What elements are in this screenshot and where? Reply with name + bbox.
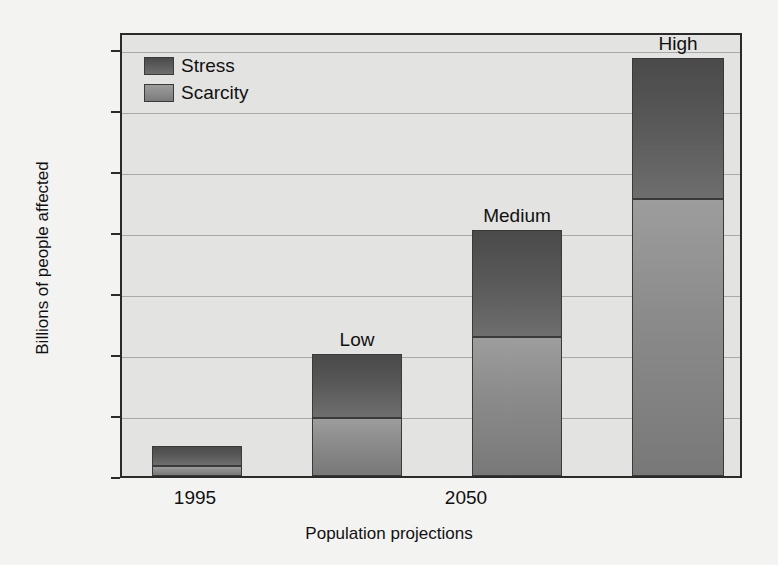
legend-item-stress: Stress bbox=[144, 53, 249, 78]
bar-segment-scarcity[interactable] bbox=[152, 466, 242, 476]
y-axis-title: Billions of people affected bbox=[33, 108, 53, 408]
bar-low[interactable]: Low bbox=[312, 354, 402, 476]
bar-segment-stress[interactable] bbox=[472, 230, 562, 337]
bar-segment-stress[interactable] bbox=[152, 446, 242, 466]
chart-legend: Stress Scarcity bbox=[144, 53, 249, 107]
bar-segment-stress[interactable] bbox=[312, 354, 402, 418]
legend-item-scarcity: Scarcity bbox=[144, 80, 249, 105]
x-tick-label: 2050 bbox=[406, 487, 526, 509]
scarcity-swatch-icon bbox=[144, 84, 174, 102]
bar-label-medium: Medium bbox=[432, 205, 602, 227]
legend-label-stress: Stress bbox=[181, 55, 235, 76]
y-tick-mark bbox=[111, 50, 120, 52]
bar-segment-scarcity[interactable] bbox=[632, 199, 724, 476]
bar-medium[interactable]: Medium bbox=[472, 230, 562, 476]
x-axis-title: Population projections bbox=[0, 524, 778, 544]
bar-segment-scarcity[interactable] bbox=[312, 418, 402, 476]
legend-label-scarcity: Scarcity bbox=[181, 82, 249, 103]
y-tick-mark bbox=[111, 416, 120, 418]
x-tick-label: 1995 bbox=[135, 487, 255, 509]
y-tick-mark bbox=[111, 172, 120, 174]
bar-high[interactable]: High bbox=[632, 58, 724, 476]
bar-1995[interactable] bbox=[152, 446, 242, 476]
y-axis: 01234567 bbox=[0, 0, 120, 565]
bar-segment-stress[interactable] bbox=[632, 58, 724, 198]
plot-area: LowMediumHigh Stress Scarcity bbox=[120, 33, 742, 478]
stress-swatch-icon bbox=[144, 57, 174, 75]
bar-segment-scarcity[interactable] bbox=[472, 337, 562, 476]
bar-label-low: Low bbox=[272, 329, 442, 351]
y-tick-mark bbox=[111, 355, 120, 357]
y-tick-mark bbox=[111, 111, 120, 113]
y-tick-mark bbox=[111, 477, 120, 479]
y-tick-mark bbox=[111, 233, 120, 235]
bar-label-high: High bbox=[592, 33, 764, 55]
y-tick-mark bbox=[111, 294, 120, 296]
chart-figure: 01234567 LowMediumHigh Stress Scarcity 1… bbox=[0, 0, 778, 565]
